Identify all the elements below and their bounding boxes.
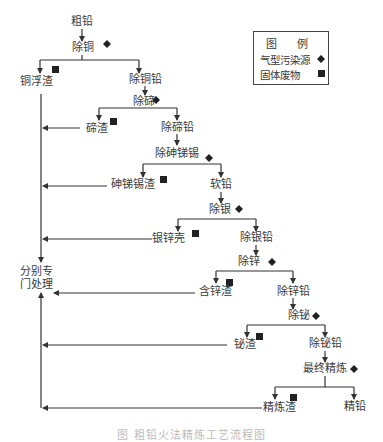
node-debismuth-lead: 除铋铅 — [309, 338, 342, 350]
diamond-icon — [312, 312, 320, 320]
diamond-icon — [205, 154, 213, 162]
node-as-sb-sn-slag: 砷锑锡渣 — [111, 179, 155, 191]
square-icon — [290, 394, 297, 401]
node-dezinc: 除锌 — [238, 256, 260, 268]
node-decopper: 除铜 — [72, 42, 94, 54]
node-desilver: 除银 — [209, 204, 231, 216]
node-tellurium-slag: 碲渣 — [86, 123, 108, 135]
node-decopper-lead: 除铜铅 — [129, 74, 162, 86]
node-refining-slag: 精炼渣 — [263, 402, 296, 414]
node-debismuth: 除铋 — [288, 310, 310, 322]
node-detellurium: 除碲 — [133, 96, 155, 108]
separate-treatment-line1: 分别专 — [20, 265, 53, 278]
diamond-icon — [235, 205, 243, 213]
node-copper-dross: 铜浮渣 — [20, 76, 53, 88]
legend-solid-waste: 固体废物 — [260, 67, 300, 82]
legend-box: 图 例 气型污染源 固体废物 — [253, 31, 329, 85]
node-bismuth-slag: 铋渣 — [234, 339, 256, 351]
figure-caption: 图 粗铅火法精炼工艺流程图 — [0, 426, 383, 442]
node-silver-zinc-crust: 银锌壳 — [152, 233, 185, 245]
node-de-as-sb-sn: 除砷锑锡 — [155, 148, 199, 160]
node-detellurium-lead: 除碲铅 — [161, 122, 194, 134]
square-icon — [160, 176, 167, 183]
node-dezinc-lead: 除锌铅 — [277, 286, 310, 298]
square-icon — [110, 118, 117, 125]
diamond-icon — [350, 365, 358, 373]
legend-gas-source: 气型污染源 — [260, 52, 310, 67]
square-icon — [192, 230, 199, 237]
separate-treatment-line2: 门处理 — [20, 278, 53, 291]
node-separate-treatment: 分别专 门处理 — [20, 265, 53, 291]
square-icon — [318, 70, 325, 77]
legend-gas-label: 气型污染源 — [260, 54, 310, 66]
node-crude-lead: 粗铅 — [71, 16, 93, 28]
diamond-icon — [268, 258, 276, 266]
diamond-icon — [103, 40, 111, 48]
node-soft-lead: 软铅 — [210, 179, 232, 191]
square-icon — [52, 66, 59, 73]
diamond-icon — [317, 55, 325, 63]
node-desilver-lead: 除银铅 — [240, 232, 273, 244]
node-refined-lead: 精铅 — [344, 401, 366, 413]
square-icon — [256, 333, 263, 340]
legend-solid-label: 固体废物 — [260, 69, 300, 81]
legend-title: 图 例 — [254, 35, 328, 51]
node-zinc-slag: 含锌渣 — [199, 286, 232, 298]
node-final-refining: 最终精炼 — [303, 363, 347, 375]
